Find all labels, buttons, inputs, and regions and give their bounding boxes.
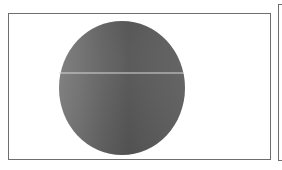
sphere-diagram xyxy=(0,0,282,170)
